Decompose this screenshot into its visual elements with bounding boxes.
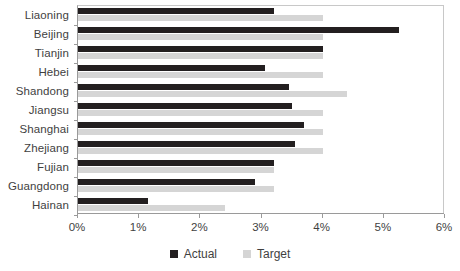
x-axis-tick (322, 214, 323, 218)
legend-swatch-icon (243, 250, 251, 258)
bar-group (78, 25, 443, 44)
y-axis-labels: LiaoningBeijingTianjinHebeiShandongJiang… (0, 5, 73, 214)
x-axis-tick (261, 214, 262, 218)
bar-target (78, 15, 323, 21)
bar-target (78, 186, 274, 192)
plot-area (77, 5, 444, 214)
y-axis-label: Guangdong (8, 180, 69, 192)
legend-swatch-icon (170, 250, 178, 258)
legend-label: Target (257, 248, 290, 260)
x-axis-tick (444, 214, 445, 218)
bar-target (78, 167, 274, 173)
bar-target (78, 205, 225, 211)
y-axis-label: Fujian (37, 161, 69, 173)
x-axis-tick-label: 4% (302, 221, 342, 233)
legend-label: Actual (184, 248, 217, 260)
bar-actual (78, 103, 292, 109)
chart-legend: ActualTarget (0, 248, 460, 260)
bar-actual (78, 46, 323, 52)
bar-actual (78, 122, 304, 128)
y-axis-label: Shanghai (20, 123, 69, 135)
y-axis-label: Tianjin (35, 47, 69, 59)
bar-actual (78, 179, 255, 185)
x-axis-tick (383, 214, 384, 218)
x-axis-tick (77, 214, 78, 218)
x-axis-tick-label: 3% (241, 221, 281, 233)
bar-target (78, 148, 323, 154)
x-axis-tick-label: 2% (179, 221, 219, 233)
y-axis-label: Jiangsu (29, 104, 69, 116)
bar-target (78, 110, 323, 116)
bar-group (78, 82, 443, 101)
y-axis-label: Zhejiang (24, 142, 69, 154)
y-axis-label: Beijing (34, 28, 69, 40)
bar-actual (78, 141, 295, 147)
y-axis-label: Hainan (32, 199, 69, 211)
bar-group (78, 6, 443, 25)
bar-group (78, 44, 443, 63)
bar-target (78, 34, 323, 40)
bar-target (78, 91, 347, 97)
bar-chart: LiaoningBeijingTianjinHebeiShandongJiang… (0, 0, 460, 271)
bar-target (78, 129, 323, 135)
bar-target (78, 72, 323, 78)
y-axis-label: Liaoning (25, 9, 69, 21)
bar-group (78, 101, 443, 120)
bar-group (78, 63, 443, 82)
bar-actual (78, 198, 148, 204)
bar-group (78, 158, 443, 177)
bar-group (78, 120, 443, 139)
legend-item-actual[interactable]: Actual (170, 248, 217, 260)
bar-group (78, 177, 443, 196)
bar-target (78, 53, 323, 59)
x-axis-tick-label: 6% (424, 221, 460, 233)
legend-item-target[interactable]: Target (243, 248, 290, 260)
bar-actual (78, 84, 289, 90)
bar-actual (78, 65, 265, 71)
x-axis-tick (138, 214, 139, 218)
y-axis-label: Hebei (38, 66, 69, 78)
bar-actual (78, 160, 274, 166)
x-axis-tick-label: 1% (118, 221, 158, 233)
x-axis-tick-label: 5% (363, 221, 403, 233)
x-axis-tick-label: 0% (57, 221, 97, 233)
bar-group (78, 139, 443, 158)
x-axis-tick (199, 214, 200, 218)
bar-actual (78, 27, 399, 33)
y-axis-label: Shandong (16, 85, 69, 97)
bar-actual (78, 8, 274, 14)
